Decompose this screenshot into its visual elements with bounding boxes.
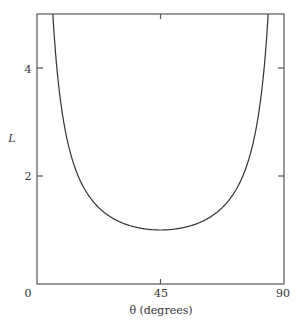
y-axis-label: L <box>7 132 15 145</box>
y-tick-label-4: 4 <box>25 63 32 76</box>
axes-box <box>37 14 284 284</box>
plot-frame <box>37 14 284 284</box>
x-tick-label-45: 45 <box>154 287 168 300</box>
y-tick-label-2: 2 <box>25 170 32 183</box>
x-tick-label-0: 0 <box>25 287 32 300</box>
chart: 0 45 90 2 4 L θ (degrees) <box>0 0 298 327</box>
x-tick-label-90: 90 <box>276 287 290 300</box>
x-axis-label: θ (degrees) <box>129 304 192 317</box>
ticks <box>37 14 284 284</box>
data-curve <box>53 14 268 230</box>
